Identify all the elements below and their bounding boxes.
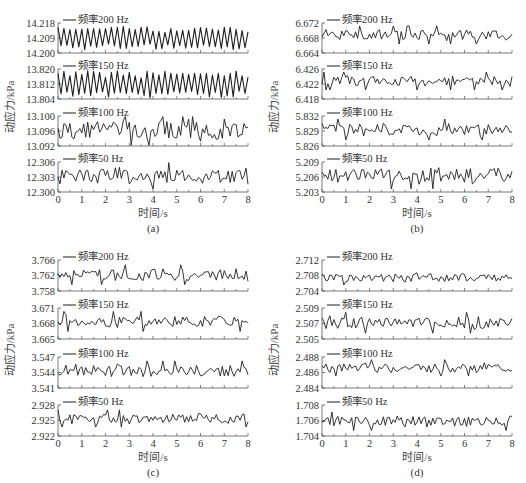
y-axis-title: 动应力/kPa bbox=[267, 81, 280, 134]
data-series-line bbox=[322, 26, 512, 44]
x-tick-label: 6 bbox=[462, 194, 467, 205]
data-series-line bbox=[322, 119, 512, 140]
x-tick-label: 3 bbox=[391, 194, 396, 205]
x-tick-label: 6 bbox=[462, 438, 467, 449]
y-tick-label: 1.708 bbox=[295, 400, 319, 411]
y-tick-label: 2.922 bbox=[31, 431, 55, 442]
legend-label: 频率100 Hz bbox=[342, 106, 393, 118]
y-tick-label: 13.812 bbox=[26, 79, 55, 90]
data-series-line bbox=[322, 273, 512, 285]
x-tick-label: 6 bbox=[198, 438, 203, 449]
data-series-line bbox=[322, 360, 512, 376]
y-tick-label: 2.509 bbox=[295, 303, 319, 314]
panel-caption: (c) bbox=[147, 466, 160, 479]
panel-c: 3.7663.7623.758频率200 Hz3.6713.6683.665频率… bbox=[3, 250, 251, 479]
y-tick-label: 14.200 bbox=[26, 48, 55, 59]
x-tick-label: 8 bbox=[245, 438, 250, 449]
panel-caption: (b) bbox=[411, 222, 424, 235]
y-tick-label: 3.547 bbox=[31, 352, 55, 363]
y-tick-label: 1.704 bbox=[295, 431, 319, 442]
x-tick-label: 1 bbox=[343, 194, 348, 205]
legend-label: 频率50 Hz bbox=[342, 395, 388, 407]
y-tick-label: 2.507 bbox=[295, 318, 319, 329]
subplot-freq-100Hz: 13.10013.09613.092频率100 Hz bbox=[26, 106, 248, 152]
subplot-freq-150Hz: 6.4266.4226.418频率150 Hz bbox=[295, 59, 512, 105]
y-tick-label: 5.206 bbox=[295, 172, 319, 183]
y-tick-label: 13.096 bbox=[26, 126, 55, 137]
data-series-line bbox=[322, 312, 512, 333]
x-tick-label: 1 bbox=[79, 194, 84, 205]
panel-d: 2.7122.7082.704频率200 Hz2.5092.5072.505频率… bbox=[267, 250, 515, 479]
x-tick-label: 2 bbox=[103, 438, 108, 449]
x-tick-label: 3 bbox=[127, 438, 132, 449]
x-axis-title: 时间/s bbox=[138, 207, 167, 219]
subplot-freq-50Hz: 5.2095.2065.203频率50 Hz012345678 bbox=[295, 152, 514, 205]
panel-b: 6.6726.6686.664频率200 Hz6.4266.4226.418频率… bbox=[267, 13, 515, 235]
data-series-line bbox=[322, 412, 512, 431]
x-tick-label: 7 bbox=[222, 194, 227, 205]
x-tick-label: 2 bbox=[367, 194, 372, 205]
data-series-line bbox=[58, 361, 248, 377]
subplot-freq-100Hz: 5.8325.8295.826频率100 Hz bbox=[295, 106, 512, 152]
y-tick-label: 3.671 bbox=[31, 303, 55, 314]
y-tick-label: 6.664 bbox=[295, 48, 319, 59]
y-tick-label: 2.712 bbox=[295, 255, 319, 266]
subplot-freq-200Hz: 6.6726.6686.664频率200 Hz bbox=[295, 13, 512, 59]
y-tick-label: 6.668 bbox=[295, 33, 319, 44]
legend-label: 频率200 Hz bbox=[78, 250, 129, 262]
y-tick-label: 13.804 bbox=[26, 94, 56, 105]
x-tick-label: 5 bbox=[174, 194, 179, 205]
y-tick-label: 5.209 bbox=[295, 157, 319, 168]
data-series-line bbox=[58, 410, 248, 427]
legend-label: 频率150 Hz bbox=[342, 59, 393, 71]
x-tick-label: 3 bbox=[127, 194, 132, 205]
data-series-line bbox=[58, 117, 248, 146]
y-tick-label: 14.218 bbox=[26, 18, 55, 29]
x-axis-title: 时间/s bbox=[402, 207, 431, 219]
subplot-freq-50Hz: 12.30612.30312.300频率50 Hz012345678 bbox=[26, 152, 251, 205]
y-tick-label: 3.665 bbox=[31, 334, 55, 345]
x-tick-label: 1 bbox=[79, 438, 84, 449]
y-tick-label: 2.704 bbox=[295, 286, 319, 297]
legend-label: 频率50 Hz bbox=[78, 152, 124, 164]
data-series-line bbox=[58, 26, 248, 49]
legend-label: 频率100 Hz bbox=[78, 347, 129, 359]
y-tick-label: 2.486 bbox=[295, 367, 319, 378]
y-tick-label: 1.706 bbox=[295, 415, 319, 426]
subplot-freq-100Hz: 3.5473.5443.541频率100 Hz bbox=[31, 347, 248, 394]
legend-label: 频率200 Hz bbox=[78, 13, 129, 25]
subplot-freq-150Hz: 2.5092.5072.505频率150 Hz bbox=[295, 298, 512, 345]
y-tick-label: 12.300 bbox=[26, 187, 55, 198]
legend-label: 频率100 Hz bbox=[342, 347, 393, 359]
x-tick-label: 7 bbox=[486, 194, 491, 205]
y-tick-label: 13.820 bbox=[26, 64, 55, 75]
y-tick-label: 5.826 bbox=[295, 141, 319, 152]
data-series-line bbox=[322, 168, 512, 189]
subplot-freq-150Hz: 3.6713.6683.665频率150 Hz bbox=[31, 298, 248, 345]
legend-label: 频率200 Hz bbox=[342, 250, 393, 262]
legend-label: 频率150 Hz bbox=[78, 298, 129, 310]
y-tick-label: 5.832 bbox=[295, 111, 319, 122]
y-tick-label: 2.925 bbox=[31, 415, 55, 426]
subplot-freq-150Hz: 13.82013.81213.804频率150 Hz bbox=[26, 59, 248, 105]
y-tick-label: 3.762 bbox=[31, 270, 55, 281]
y-tick-label: 6.422 bbox=[295, 79, 319, 90]
y-tick-label: 2.928 bbox=[31, 400, 55, 411]
y-tick-label: 3.668 bbox=[31, 318, 55, 329]
panel-caption: (a) bbox=[147, 222, 160, 235]
x-tick-label: 1 bbox=[343, 438, 348, 449]
x-tick-label: 6 bbox=[198, 194, 203, 205]
panel-caption: (d) bbox=[411, 466, 424, 479]
y-tick-label: 5.829 bbox=[295, 126, 319, 137]
x-tick-label: 7 bbox=[486, 438, 491, 449]
y-tick-label: 14.209 bbox=[26, 33, 55, 44]
subplot-freq-200Hz: 14.21814.20914.200频率200 Hz bbox=[26, 13, 248, 59]
y-tick-label: 5.203 bbox=[295, 187, 319, 198]
x-tick-label: 0 bbox=[319, 438, 324, 449]
legend-label: 频率150 Hz bbox=[342, 298, 393, 310]
y-tick-label: 2.488 bbox=[295, 352, 319, 363]
x-tick-label: 3 bbox=[391, 438, 396, 449]
y-tick-label: 13.100 bbox=[26, 111, 55, 122]
x-tick-label: 0 bbox=[55, 438, 60, 449]
legend-label: 频率50 Hz bbox=[78, 395, 124, 407]
